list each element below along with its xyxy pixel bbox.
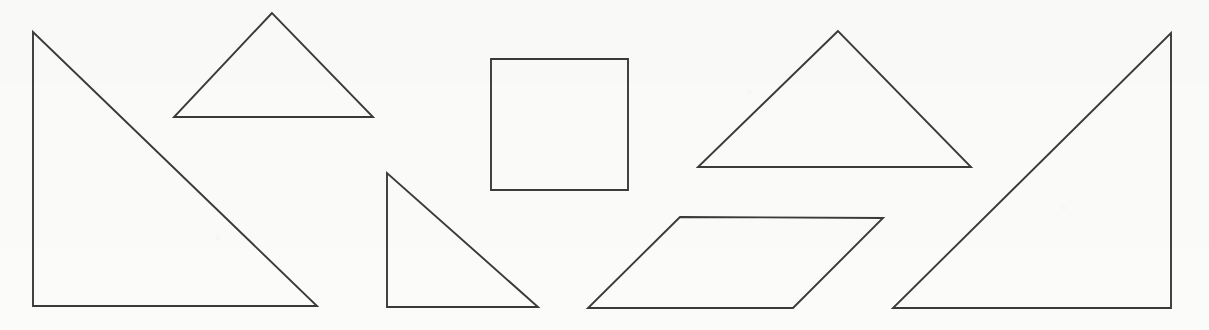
square-center: [491, 59, 628, 190]
large-right-triangle-left: [33, 32, 317, 306]
parallelogram-center-right: [588, 217, 883, 308]
small-right-triangle-center: [387, 173, 538, 307]
shapes-canvas: [0, 0, 1209, 330]
shapes-figure: [0, 0, 1209, 330]
small-obtuse-triangle-top-left: [174, 13, 373, 117]
large-right-triangle-right: [893, 33, 1171, 308]
medium-obtuse-triangle-right: [698, 31, 971, 167]
